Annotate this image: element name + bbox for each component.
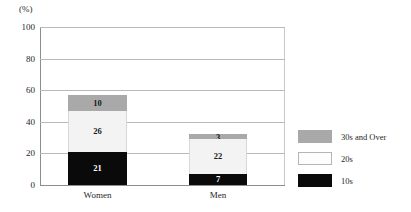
legend-swatch-20s (298, 152, 332, 165)
stacked-bar-chart: (%) 100 80 60 40 20 0 10 26 21 3 22 7 Wo… (0, 0, 411, 212)
legend-item-30s-and-over: 30s and Over (298, 128, 386, 145)
x-axis-label-women: Women (68, 190, 127, 201)
y-tick-label-40: 40 (26, 117, 35, 127)
y-tick-label-100: 100 (22, 22, 36, 32)
legend-label-30s-and-over: 30s and Over (341, 132, 386, 142)
y-tick-label-0: 0 (31, 180, 36, 190)
bar-segment-women-10s: 21 (68, 152, 127, 185)
gridline-80 (40, 59, 285, 60)
y-tick-label-60: 60 (26, 85, 35, 95)
bar-segment-women-30s: 10 (68, 95, 127, 111)
x-axis-label-men: Men (189, 190, 247, 201)
chart-legend: 30s and Over 20s 10s (298, 128, 386, 189)
bar-segment-men-20s: 22 (189, 139, 247, 174)
y-tick-label-80: 80 (26, 54, 35, 64)
gridline-60 (40, 90, 285, 91)
legend-label-20s: 20s (341, 154, 353, 164)
gridline-100 (40, 27, 285, 28)
y-tick-label-20: 20 (26, 148, 35, 158)
y-axis-unit-label: (%) (19, 4, 33, 15)
legend-label-10s: 10s (341, 176, 353, 186)
gridline-0 (40, 185, 285, 186)
bar-segment-men-10s: 7 (189, 174, 247, 185)
bar-segment-women-20s: 26 (68, 111, 127, 152)
legend-item-10s: 10s (298, 172, 386, 189)
legend-item-20s: 20s (298, 150, 386, 167)
bar-women: 10 26 21 (68, 95, 127, 185)
legend-swatch-30s-and-over (298, 130, 332, 143)
plot-area: 100 80 60 40 20 0 10 26 21 3 22 7 (40, 27, 285, 185)
bar-men: 3 22 7 (189, 134, 247, 185)
legend-swatch-10s (298, 174, 332, 187)
